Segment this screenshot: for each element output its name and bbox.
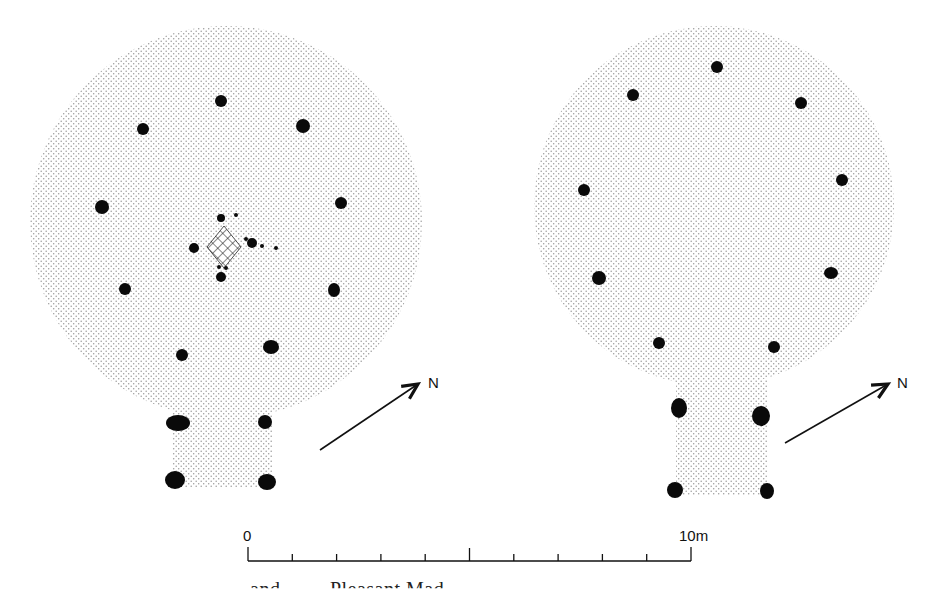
posthole [258,474,276,490]
posthole [671,398,687,418]
posthole [795,97,807,109]
posthole [592,271,606,285]
roundhouse-plan-left: N [30,26,439,490]
stakehole [234,213,238,217]
posthole [137,123,149,135]
stakehole [216,272,226,282]
north-arrow-icon: N [320,374,439,450]
roundhouse-plan-right: N [534,26,908,499]
posthole [176,349,188,361]
site-plan-figure: N N 010m [0,0,939,591]
stakehole [274,246,278,250]
north-label: N [428,374,439,391]
posthole [752,406,770,426]
posthole [215,95,227,107]
scale-label-end: 10m [679,527,708,544]
stakehole [260,244,264,248]
scale-label-start: 0 [243,527,251,544]
stakehole [189,243,199,253]
posthole [768,341,780,353]
posthole [328,283,340,297]
posthole [824,267,838,279]
roundhouse-floor [30,26,422,418]
posthole [95,200,109,214]
stakehole [247,238,257,248]
roundhouse-floor [534,26,894,386]
posthole [335,197,347,209]
posthole [578,184,590,196]
north-label: N [897,374,908,391]
stakehole [244,237,248,241]
posthole [711,61,723,73]
north-arrow-icon: N [785,374,908,443]
stakehole [224,266,228,270]
posthole [296,119,310,133]
posthole [166,415,190,431]
scale-bar: 010m [243,527,708,561]
posthole [119,283,131,295]
posthole [165,471,185,489]
posthole [263,340,279,354]
stakehole [217,214,225,222]
stakehole [217,265,221,269]
porch-floor [676,380,768,495]
posthole [667,482,683,498]
posthole [760,483,774,499]
posthole [653,337,665,349]
posthole [836,174,848,186]
posthole [258,415,272,429]
posthole [627,89,639,101]
